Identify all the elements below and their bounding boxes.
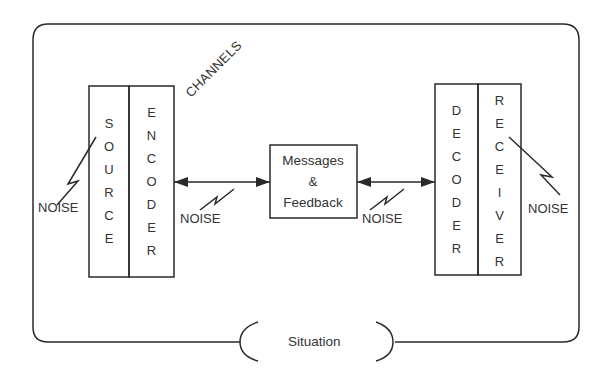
messages-line-3: Feedback — [283, 192, 342, 213]
situation-label: Situation — [288, 335, 341, 349]
receiver-letter: C — [495, 135, 504, 158]
source-letter: U — [104, 158, 113, 181]
receiver-letter: R — [495, 250, 504, 273]
decoder-letter: E — [452, 122, 461, 145]
decoder-letter: D — [452, 99, 461, 122]
decoder-letter: R — [452, 237, 461, 260]
arrowhead-icon — [357, 177, 371, 187]
decoder-letter: E — [452, 214, 461, 237]
source-letter: C — [104, 204, 113, 227]
noise-label-receiver: NOISE — [528, 202, 568, 215]
noise-zigzag-left-channel — [200, 189, 234, 210]
encoder-letter: O — [146, 170, 156, 193]
noise-label-left-channel: NOISE — [180, 212, 220, 225]
messages-line-2: & — [308, 171, 317, 192]
noise-label-right-channel: NOISE — [362, 212, 402, 225]
encoder-letter: C — [147, 147, 156, 170]
source-letter: E — [105, 227, 114, 250]
receiver-letter: E — [495, 227, 504, 250]
encoder-letter: E — [147, 101, 156, 124]
encoder-letters: E N C O D E R — [129, 101, 174, 262]
receiver-letter: R — [495, 89, 504, 112]
arrowhead-icon — [421, 177, 435, 187]
encoder-letter: E — [147, 216, 156, 239]
noise-label-source: NOISE — [38, 201, 78, 214]
messages-line-1: Messages — [282, 150, 344, 171]
receiver-letter: E — [495, 112, 504, 135]
receiver-letter: I — [498, 181, 502, 204]
source-letter: O — [104, 135, 114, 158]
decoder-letter: O — [451, 168, 461, 191]
encoder-letter: R — [147, 239, 156, 262]
situation-right-bracket — [376, 322, 393, 361]
encoder-letter: N — [147, 124, 156, 147]
receiver-letters: R E C E I V E R — [478, 89, 521, 273]
receiver-letter: V — [495, 204, 504, 227]
source-letter: R — [104, 181, 113, 204]
arrowhead-icon — [256, 177, 270, 187]
decoder-letter: C — [452, 145, 461, 168]
source-letters: S O U R C E — [89, 112, 129, 250]
messages-feedback-label: Messages & Feedback — [270, 145, 356, 217]
source-letter: S — [105, 112, 114, 135]
encoder-letter: D — [147, 193, 156, 216]
decoder-letters: D E C O D E R — [435, 99, 478, 260]
decoder-letter: D — [452, 191, 461, 214]
arrowhead-icon — [174, 177, 188, 187]
noise-zigzag-right-channel — [370, 189, 404, 210]
receiver-letter: E — [495, 158, 504, 181]
situation-left-bracket — [240, 322, 258, 361]
